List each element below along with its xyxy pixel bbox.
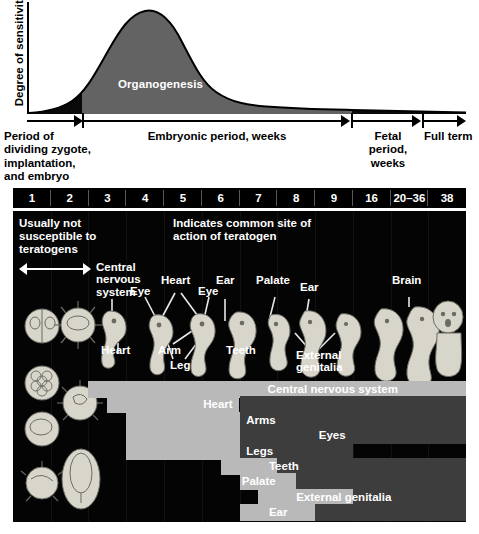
axis-embryonic (84, 114, 350, 128)
week-cell-38: 38 (428, 188, 466, 208)
figure-fetus-week16 (374, 309, 403, 381)
week-cell-7: 7 (240, 188, 278, 208)
week-number-bar: 1234567891620–3638 (13, 188, 466, 208)
callout-teeth: Teeth (226, 344, 256, 356)
axis-full-term (424, 114, 468, 128)
callout-arm: Arm (158, 344, 181, 356)
organogenesis-label: Organogenesis (118, 78, 203, 90)
callout-palate: Palate (256, 274, 290, 286)
week-cell-8: 8 (277, 188, 315, 208)
sensitivity-row-ear: Ear (13, 504, 466, 521)
teratogen-sensitivity-panel: Usually notsusceptible toteratogens Indi… (13, 211, 466, 522)
week-cell-4: 4 (126, 188, 164, 208)
week-cell-9: 9 (315, 188, 353, 208)
callout-external-genitalia: Externalgenitalia (296, 349, 343, 374)
curve-segment-organogenesis (29, 11, 466, 114)
week-cell-20-36: 20–36 (391, 188, 429, 208)
callout-eye-left: Eye (130, 285, 150, 297)
sensitivity-curve (0, 0, 479, 125)
axis-dividing-zygote (27, 114, 83, 128)
figure-zygote (25, 309, 59, 343)
sensitivity-row-label-ear: Ear (269, 504, 288, 521)
week-cell-5: 5 (164, 188, 202, 208)
sensitivity-curve-section: Degree of sensitivity Organogenesis (0, 0, 479, 185)
callout-leg: Leg (170, 359, 190, 371)
callout-heart-lower: Heart (101, 344, 130, 356)
week-cell-16: 16 (353, 188, 391, 208)
period-label-embryonic: Embryonic period, weeks (84, 130, 350, 143)
sensitivity-bar-rows: Central nervous systemHeartArmsEyesLegsT… (13, 381, 466, 522)
callout-ear-week6: Ear (216, 274, 235, 286)
figure-fetus-week7 (268, 314, 290, 370)
period-label-fetal: Fetal period, weeks (354, 130, 422, 170)
axis-fetal (353, 114, 421, 128)
figure-embryo-week5 (190, 314, 215, 377)
callout-heart-upper: Heart (161, 274, 190, 286)
figure-implanted-blastocyst-a (54, 301, 102, 349)
callout-ear-week8: Ear (300, 281, 319, 293)
figure-embryo-week3 (102, 311, 127, 368)
week-cell-2: 2 (51, 188, 89, 208)
period-label-full-term: Full term (424, 130, 476, 143)
week-cell-1: 1 (13, 188, 51, 208)
sensitivity-segment-low (315, 504, 466, 521)
callout-eye-right: Eye (198, 285, 218, 297)
week-cell-6: 6 (202, 188, 240, 208)
figure-newborn-week38 (433, 301, 463, 377)
callout-brain: Brain (392, 274, 421, 286)
week-cell-3: 3 (89, 188, 127, 208)
